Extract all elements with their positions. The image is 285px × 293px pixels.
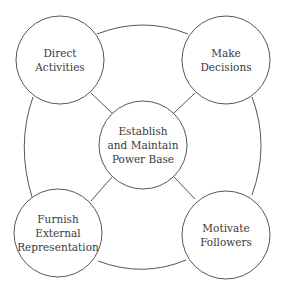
node-label-top-left: Direct Activities [16, 16, 104, 104]
node-label-bottom-left: Furnish External Representation [10, 189, 106, 277]
node-label-center: Establish and Maintain Power Base [99, 101, 187, 189]
arc-left [24, 97, 33, 197]
arc-bottom [98, 260, 186, 269]
node-label-bottom-right: Motivate Followers [182, 191, 270, 279]
arc-right [252, 97, 261, 195]
node-label-top-right: Make Decisions [182, 16, 270, 104]
arc-top [97, 25, 188, 34]
